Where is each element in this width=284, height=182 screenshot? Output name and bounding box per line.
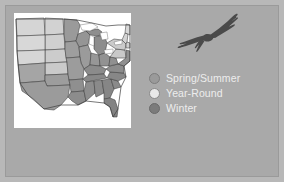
state-new-mexico	[18, 63, 45, 83]
legend-label-year-round: Year-Round	[166, 88, 223, 99]
state-indiana	[90, 53, 100, 66]
bird-svg	[176, 11, 242, 59]
state-kansas	[45, 62, 68, 75]
state-colorado	[17, 50, 45, 65]
soaring-raptor-silhouette-icon	[176, 11, 242, 59]
state-massachusetts-connecticut	[126, 42, 130, 48]
state-maine	[125, 24, 130, 35]
us-range-map	[14, 13, 131, 128]
bird-head	[212, 34, 217, 38]
map-legend: Spring/Summer Year-Round Winter	[149, 71, 274, 116]
state-south-dakota	[45, 34, 65, 50]
legend-item-year-round[interactable]: Year-Round	[149, 86, 274, 101]
us-map-svg	[14, 13, 131, 128]
legend-swatch-winter	[149, 103, 160, 114]
legend-item-winter[interactable]: Winter	[149, 101, 274, 116]
legend-swatch-spring-summer	[149, 73, 160, 84]
legend-swatch-year-round	[149, 88, 160, 99]
bird-body-group	[178, 14, 238, 52]
state-montana	[16, 18, 45, 36]
state-wyoming	[17, 35, 45, 51]
range-map-figure: Spring/Summer Year-Round Winter	[0, 0, 284, 182]
lake-erie	[104, 49, 113, 54]
legend-label-spring-summer: Spring/Summer	[166, 73, 240, 84]
state-north-dakota	[45, 18, 64, 35]
state-oklahoma	[45, 74, 70, 86]
lake-michigan	[89, 35, 94, 46]
legend-item-spring-summer[interactable]: Spring/Summer	[149, 71, 274, 86]
legend-label-winter: Winter	[166, 103, 197, 114]
state-nebraska	[45, 49, 67, 63]
state-arkansas	[69, 79, 84, 92]
bird-body	[203, 34, 213, 41]
